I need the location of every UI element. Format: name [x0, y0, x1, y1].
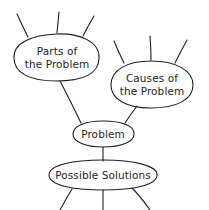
node-label-parts: Parts of the Problem	[25, 45, 90, 71]
node-label-solutions-text: Possible Solutions	[55, 169, 151, 182]
node-label-solutions: Possible Solutions	[55, 169, 151, 182]
branch-line-solutions-1	[60, 189, 72, 210]
branch-line-causes-3	[175, 40, 187, 63]
node-label-causes: Causes of the Problem	[120, 72, 185, 98]
edge-parts-to-problem	[60, 81, 81, 123]
node-label-causes-line2: the Problem	[120, 85, 185, 98]
branch-line-solutions-3	[132, 188, 150, 210]
node-label-problem: Problem	[81, 128, 125, 141]
branch-line-parts-1	[17, 14, 28, 37]
edge-causes-to-problem	[125, 106, 137, 123]
node-label-parts-line1: Parts of	[25, 45, 90, 58]
node-label-causes-line1: Causes of	[120, 72, 185, 85]
branch-line-parts-2	[57, 12, 59, 33]
node-label-problem-text: Problem	[81, 128, 125, 141]
branch-line-causes-2	[150, 36, 151, 60]
branch-line-causes-1	[114, 41, 124, 63]
node-label-parts-line2: the Problem	[25, 58, 90, 71]
branch-line-parts-3	[83, 16, 94, 36]
